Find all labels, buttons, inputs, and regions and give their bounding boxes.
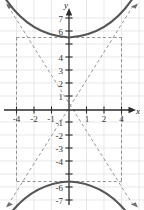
x-tick-label-neg1: -1: [47, 114, 55, 124]
x-axis-name: x: [135, 106, 140, 116]
coordinate-plane-svg: -4 -2 -1 1 2 4 7 6 4 3 2 1 -1 -2 -3 -4 -…: [0, 0, 144, 210]
y-tick-label-1: 1: [59, 92, 64, 102]
y-tick-labels-lower: -1 -2 -3 -4 -6 -7: [56, 118, 64, 206]
y-tick-label-neg7: -7: [56, 196, 64, 206]
y-tick-label-neg1: -1: [56, 118, 64, 128]
x-tick-label-1: 1: [85, 114, 90, 124]
x-tick-label-neg4: -4: [13, 114, 21, 124]
x-tick-label-neg2: -2: [30, 114, 38, 124]
y-tick-label-3: 3: [59, 66, 64, 76]
y-tick-label-neg4: -4: [56, 157, 64, 167]
x-tick-label-4: 4: [119, 114, 124, 124]
y-tick-label-neg2: -2: [56, 131, 64, 141]
y-tick-label-4: 4: [59, 53, 64, 63]
y-tick-label-2: 2: [59, 79, 64, 89]
x-tick-label-2: 2: [102, 114, 107, 124]
y-tick-label-6: 6: [59, 27, 64, 37]
hyperbola-graph-figure: -4 -2 -1 1 2 4 7 6 4 3 2 1 -1 -2 -3 -4 -…: [0, 0, 144, 210]
y-tick-labels-upper: 7 6 4 3 2 1: [59, 14, 64, 102]
y-axis-name: y: [63, 0, 68, 10]
y-tick-label-neg6: -6: [56, 183, 64, 193]
y-tick-label-neg3: -3: [56, 144, 64, 154]
y-tick-label-7: 7: [59, 14, 64, 24]
